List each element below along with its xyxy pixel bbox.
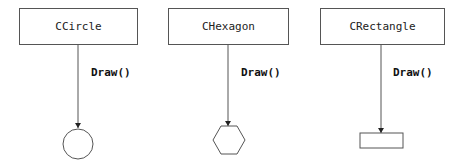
hexagon-shape <box>213 126 245 154</box>
method-label-ccircle: Draw() <box>91 66 131 79</box>
rectangle-shape <box>360 133 403 148</box>
circle-shape <box>63 129 93 159</box>
method-label-crectangle: Draw() <box>393 66 433 79</box>
class-box-crectangle: CRectangle <box>320 8 445 45</box>
method-label-chexagon: Draw() <box>241 66 281 79</box>
class-name: CHexagon <box>202 20 255 33</box>
class-box-chexagon: CHexagon <box>168 8 289 45</box>
diagram-canvas: CCircle CHexagon CRectangle Draw() Draw(… <box>0 0 456 163</box>
class-box-ccircle: CCircle <box>19 8 138 45</box>
class-name: CCircle <box>55 20 101 33</box>
class-name: CRectangle <box>349 20 415 33</box>
